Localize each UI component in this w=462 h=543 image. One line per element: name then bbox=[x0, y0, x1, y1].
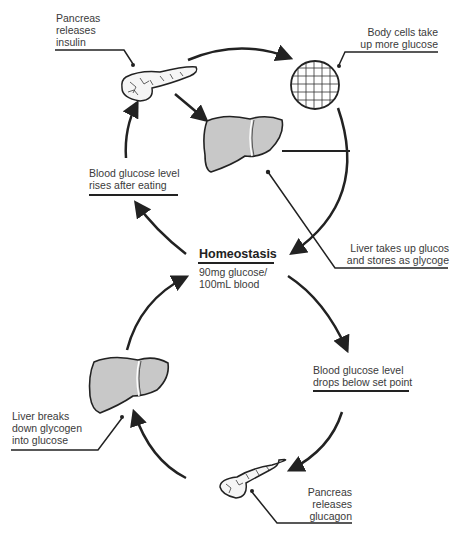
label-liver-breaks-glycogen: Liver breaks down glycogen into glucose bbox=[12, 410, 82, 446]
liver-icon bbox=[204, 116, 283, 172]
homeostasis-value-line1: 90mg glucose/ bbox=[199, 266, 267, 278]
label-blood-glucose-rises: Blood glucose level rises after eating bbox=[89, 167, 179, 191]
pancreas-icon bbox=[122, 67, 197, 101]
arrow-cells-to-homeostasis bbox=[292, 108, 347, 253]
label-pancreas-releases-glucagon: Pancreas releases glucagon bbox=[290, 486, 352, 522]
arrow-pancreas-to-liver bbox=[175, 94, 206, 120]
homeostasis-value-line2: 100mL blood bbox=[199, 278, 259, 290]
arrow-rises-to-pancreas bbox=[126, 103, 137, 158]
arrow-homeostasis-to-drops bbox=[288, 276, 347, 350]
label-liver-stores-glycogen: Liver takes up glucos and stores as glyc… bbox=[337, 242, 449, 266]
leader-pancreas-insulin bbox=[55, 50, 133, 64]
arrow-pancreas-to-liver2 bbox=[134, 412, 186, 478]
arrow-homeostasis-to-rises bbox=[136, 203, 186, 254]
arrow-liver-to-homeostasis bbox=[127, 277, 186, 350]
homeostasis-title: Homeostasis bbox=[199, 247, 277, 261]
arrow-pancreas-to-cells bbox=[188, 48, 290, 60]
label-blood-glucose-drops: Blood glucose level drops below set poin… bbox=[313, 364, 412, 388]
body-cells-icon bbox=[285, 60, 345, 110]
label-body-cells-take-up-glucose: Body cells take up more glucose bbox=[360, 26, 438, 50]
liver-icon bbox=[90, 357, 169, 413]
label-pancreas-releases-insulin: Pancreas releases insulin bbox=[56, 12, 100, 48]
arrow-drops-to-pancreas bbox=[290, 412, 342, 470]
leader-body-cells bbox=[339, 52, 438, 65]
